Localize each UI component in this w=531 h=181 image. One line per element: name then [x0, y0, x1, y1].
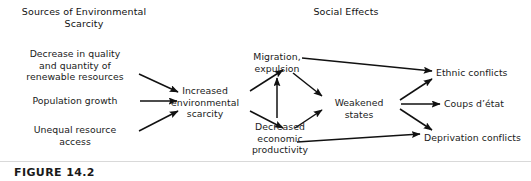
node-decrease-in-quality: Decrease in quality and quantity of rene… [14, 48, 136, 83]
node-deprivation-conflicts: Deprivation conflicts [424, 132, 530, 144]
figure-caption: FIGURE 14.2 [14, 166, 95, 179]
heading-social-effects: Social Effects [292, 6, 400, 18]
node-weakened-states: Weakened states [320, 97, 398, 120]
edge-weakened-to-deprivation [400, 109, 432, 130]
figure-container: Sources of Environmental Scarcity Social… [0, 0, 531, 181]
node-ethnic-conflicts: Ethnic conflicts [436, 67, 528, 79]
heading-sources-of-environmental-scarcity: Sources of Environmental Scarcity [8, 6, 160, 29]
node-coups-detat: Coups d’état [444, 98, 524, 110]
caption-divider [0, 161, 531, 162]
edge-migration-to-weakened [293, 73, 322, 96]
node-decreased-economic-productivity: Decreased economic productivity [243, 121, 317, 156]
node-unequal-resource-access: Unequal resource access [14, 124, 136, 147]
node-migration-expulsion: Migration, expulsion [243, 51, 311, 74]
node-increased-environmental-scarcity: Increased environmental scarcity [163, 85, 247, 120]
node-population-growth: Population growth [14, 95, 136, 107]
edge-weakened-to-ethnic [400, 79, 432, 100]
edge-migration-to-ethnic [302, 58, 432, 71]
